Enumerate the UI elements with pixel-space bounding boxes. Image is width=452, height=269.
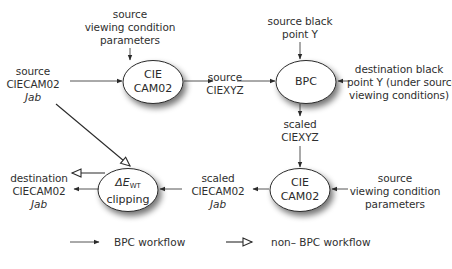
node-line: CIE bbox=[270, 176, 330, 190]
label-line: CIECAM02 bbox=[184, 185, 252, 198]
diagram-canvas bbox=[0, 0, 452, 269]
label-line: point Y (under source bbox=[347, 76, 451, 89]
label-line: source bbox=[3, 65, 63, 78]
label-line: destination black bbox=[347, 63, 451, 76]
label-line: viewing condition bbox=[345, 185, 445, 198]
label-line: source bbox=[195, 71, 255, 84]
label-scaled-jab: scaled CIECAM02 Jab bbox=[184, 172, 252, 211]
label-line: parameters bbox=[345, 198, 445, 211]
node-line: CIE bbox=[123, 68, 183, 82]
label-line: CIECAM02 bbox=[6, 185, 72, 198]
label-line: scaled bbox=[270, 118, 330, 131]
label-line-text: point Y bbox=[282, 28, 318, 40]
label-line: Jab bbox=[184, 198, 252, 211]
node-line: BPC bbox=[276, 75, 336, 89]
delta-e-text: ΔE bbox=[115, 176, 129, 189]
label-line: Jab bbox=[6, 198, 72, 211]
label-line: parameters bbox=[80, 34, 180, 47]
legend-bpc-label: BPC workflow bbox=[114, 236, 185, 249]
arrow-jab-to-clipping-nonbpc bbox=[56, 104, 130, 166]
label-line: scaled bbox=[184, 172, 252, 185]
label-line: source bbox=[80, 8, 180, 21]
label-line: source bbox=[345, 172, 445, 185]
node-label-cam02-inverse: CIE CAM02 bbox=[270, 176, 330, 204]
node-label-cam02-forward: CIE CAM02 bbox=[123, 68, 183, 96]
label-line: Jab bbox=[3, 91, 63, 104]
label-line: CIEXYZ bbox=[270, 131, 330, 144]
node-line: clipping bbox=[98, 193, 158, 207]
node-line: CAM02 bbox=[123, 82, 183, 96]
label-line: CIEXYZ bbox=[195, 84, 255, 97]
label-source-vc-top: source viewing condition parameters bbox=[80, 8, 180, 47]
node-label-bpc: BPC bbox=[276, 75, 336, 89]
cropped-caption bbox=[24, 262, 434, 269]
label-line: CIECAM02 bbox=[3, 78, 63, 91]
label-line: destination bbox=[6, 172, 72, 185]
label-dest-black-point: destination black point Y (under source … bbox=[347, 63, 451, 102]
legend-nonbpc-label: non– BPC workflow bbox=[271, 236, 371, 249]
label-line: source black bbox=[260, 15, 340, 28]
label-line: viewing conditions) bbox=[347, 89, 451, 102]
label-source-black-point: source black point Y bbox=[260, 15, 340, 41]
label-line: viewing condition bbox=[80, 21, 180, 34]
label-source-jab: source CIECAM02 Jab bbox=[3, 65, 63, 104]
delta-e-subscript: WT bbox=[130, 182, 141, 190]
label-scaled-ciexyz: scaled CIEXYZ bbox=[270, 118, 330, 144]
label-dest-jab: destination CIECAM02 Jab bbox=[6, 172, 72, 211]
label-line: point Y bbox=[260, 28, 340, 41]
node-label-delta-e-clipping: ΔEWT clipping bbox=[98, 176, 158, 207]
delta-e-symbol: ΔEWT bbox=[98, 176, 158, 193]
label-source-ciexyz: source CIEXYZ bbox=[195, 71, 255, 97]
node-line: CAM02 bbox=[270, 190, 330, 204]
label-source-vc-bottom: source viewing condition parameters bbox=[345, 172, 445, 211]
